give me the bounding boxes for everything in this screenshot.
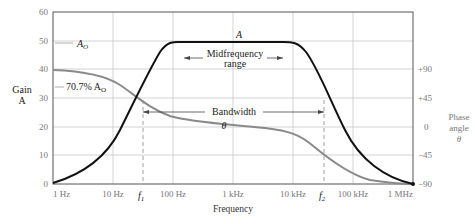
svg-text:−45: −45 xyxy=(418,150,433,160)
svg-text:1 Hz: 1 Hz xyxy=(53,189,70,199)
svg-text:100 kHz: 100 kHz xyxy=(338,189,369,199)
bode-plot: 60 50 40 30 20 10 0 +90 +45 0 −45 −90 1 … xyxy=(0,0,475,224)
gain-curve-label: A xyxy=(235,29,243,40)
y-axis-ticks: 60 50 40 30 20 10 0 xyxy=(39,7,49,189)
svg-text:0: 0 xyxy=(44,179,49,189)
svg-text:1 kHz: 1 kHz xyxy=(222,189,244,199)
svg-text:40: 40 xyxy=(39,64,49,74)
x-axis-title: Frequency xyxy=(213,204,253,214)
svg-text:0: 0 xyxy=(424,122,429,132)
svg-text:30: 30 xyxy=(39,93,49,103)
svg-text:−90: −90 xyxy=(418,179,433,189)
svg-text:50: 50 xyxy=(39,36,49,46)
grid xyxy=(53,12,413,184)
svg-text:10 kHz: 10 kHz xyxy=(280,189,306,199)
svg-text:10: 10 xyxy=(39,150,49,160)
ao-label: AO xyxy=(76,38,88,51)
svg-text:100 Hz: 100 Hz xyxy=(160,189,186,199)
y2-axis-title-line3: θ xyxy=(457,134,462,144)
svg-text:60: 60 xyxy=(39,7,49,17)
pct-label: 70.7% AO xyxy=(66,81,106,94)
x-axis-ticks: 1 Hz 10 Hz 100 Hz 1 kHz 10 kHz 100 kHz 1… xyxy=(53,189,413,199)
f2-label: f2 xyxy=(319,190,326,203)
svg-text:+90: +90 xyxy=(418,64,433,74)
y2-axis-title-line2: angle xyxy=(449,123,469,133)
y2-axis-title-line1: Phase xyxy=(449,112,470,122)
svg-text:range: range xyxy=(224,58,247,69)
phase-curve-label: θ xyxy=(222,120,227,131)
svg-text:+45: +45 xyxy=(418,93,433,103)
y-axis-title-line2: A xyxy=(18,95,26,106)
svg-text:1 MHz: 1 MHz xyxy=(388,189,413,199)
midfrequency-range-annotation: Midfrequency range xyxy=(184,48,283,69)
curve-endpoint xyxy=(411,182,415,186)
y-axis-title-line1: Gain xyxy=(12,84,31,95)
f1-label: f1 xyxy=(138,190,144,203)
y2-axis-ticks: +90 +45 0 −45 −90 xyxy=(418,64,433,189)
svg-text:20: 20 xyxy=(39,122,49,132)
svg-text:10 Hz: 10 Hz xyxy=(102,189,124,199)
svg-text:Bandwidth: Bandwidth xyxy=(212,106,256,117)
